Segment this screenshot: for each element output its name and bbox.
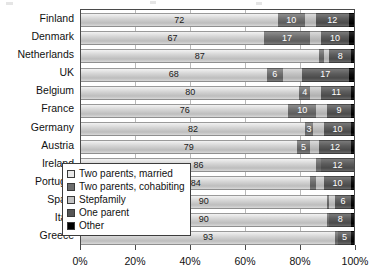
bar-segment (316, 176, 324, 190)
bar-value-label: 6 (341, 197, 346, 206)
bar-value-label: 90 (199, 197, 209, 206)
legend-item: Other (67, 219, 185, 232)
bar-segment: 76 (81, 104, 288, 118)
bar-row: 878 (81, 49, 354, 61)
bar-value-label: 10 (286, 16, 296, 25)
bar-value-label: 12 (327, 16, 337, 25)
bar-value-label: 90 (199, 215, 209, 224)
bar-value-label: 5 (342, 233, 347, 242)
bar-value-label: 8 (338, 215, 343, 224)
bar-value-label: 10 (333, 179, 343, 188)
bar-segment: 5 (338, 231, 352, 245)
bar-value-label: 9 (336, 106, 341, 115)
bar-segment: 11 (321, 86, 351, 100)
bar-value-label: 84 (191, 179, 201, 188)
bar-segment: 17 (302, 68, 348, 82)
bar-segment (351, 176, 354, 190)
bar-value-label: 10 (330, 34, 340, 43)
x-tick-60 (245, 245, 246, 250)
scan-artifact (256, 2, 262, 5)
bar-segment (349, 31, 354, 45)
bar-segment (316, 104, 327, 118)
bar-row: 82310 (81, 122, 354, 134)
bar-segment (351, 195, 354, 209)
bar-segment: 3 (305, 122, 313, 136)
bar-value-label: 17 (320, 70, 330, 79)
bar-segment: 82 (81, 122, 305, 136)
y-axis-label-finland: Finland (0, 13, 74, 24)
bar-segment: 17 (264, 31, 310, 45)
bar-segment: 5 (297, 140, 311, 154)
bar-value-label: 68 (169, 70, 179, 79)
bar-segment: 8 (329, 49, 351, 63)
bar-row: 671710 (81, 31, 354, 43)
bar-segment (305, 13, 316, 27)
legend-swatch (67, 222, 75, 230)
bar-row: 68617 (81, 68, 354, 80)
x-axis (80, 245, 355, 253)
bar-segment (283, 68, 302, 82)
bar-segment (351, 213, 354, 227)
bar-row: 79512 (81, 140, 354, 152)
bar-segment: 10 (324, 176, 351, 190)
bar-segment (351, 49, 354, 63)
bar-segment (349, 68, 354, 82)
bar-segment: 12 (319, 140, 352, 154)
y-axis-label-france: France (0, 103, 74, 114)
bar-value-label: 82 (188, 125, 198, 134)
legend-swatch (67, 209, 75, 217)
bar-segment: 68 (81, 68, 267, 82)
y-axis-label-belgium: Belgium (0, 85, 74, 96)
legend-label: One parent (79, 208, 129, 218)
legend-item: One parent (67, 206, 185, 219)
bar-value-label: 11 (332, 88, 341, 97)
y-axis-label-austria: Austria (0, 140, 74, 151)
bar-segment: 10 (324, 122, 351, 136)
bar-segment: 80 (81, 86, 299, 100)
bar-row: 80411 (81, 86, 354, 98)
bar-segment: 9 (327, 104, 352, 118)
x-tick-label-40: 40% (179, 255, 200, 267)
x-tick-label-80: 80% (289, 255, 310, 267)
x-axis-tick-labels: 0%20%40%60%80%100% (0, 255, 369, 271)
bar-segment (351, 86, 354, 100)
bar-segment (310, 140, 318, 154)
bar-segment: 87 (81, 49, 319, 63)
bar-value-label: 5 (301, 143, 306, 152)
y-axis-label-uk: UK (0, 67, 74, 78)
legend-swatch (67, 183, 75, 191)
bar-value-label: 17 (282, 34, 292, 43)
bar-value-label: 10 (333, 125, 343, 134)
bar-value-label: 8 (338, 52, 343, 61)
legend-item: Two parents, cohabiting (67, 180, 185, 193)
bar-value-label: 93 (203, 233, 213, 242)
chart-legend: Two parents, marriedTwo parents, cohabit… (62, 163, 191, 236)
legend-swatch (67, 196, 75, 204)
bar-value-label: 79 (184, 143, 194, 152)
bar-value-label: 67 (167, 34, 177, 43)
bar-value-label: 6 (272, 70, 277, 79)
bar-segment (351, 122, 354, 136)
x-tick-label-100: 100% (342, 255, 369, 267)
bar-segment (313, 122, 324, 136)
x-tick-label-20: 20% (124, 255, 145, 267)
y-axis-label-netherlands: Netherlands (0, 49, 74, 60)
y-axis-label-denmark: Denmark (0, 31, 74, 42)
bar-row: 76109 (81, 104, 354, 116)
legend-swatch (67, 170, 75, 178)
bar-segment (349, 13, 354, 27)
bar-segment (310, 31, 321, 45)
x-tick-80 (300, 245, 301, 250)
x-tick-label-0: 0% (72, 255, 87, 267)
scan-artifact (150, 1, 156, 4)
legend-item: Two parents, married (67, 167, 185, 180)
bar-value-label: 4 (302, 88, 307, 97)
bar-value-label: 76 (180, 106, 190, 115)
bar-segment (351, 140, 354, 154)
bar-value-label: 86 (193, 161, 203, 170)
bar-segment (351, 104, 354, 118)
bar-segment: 10 (288, 104, 315, 118)
x-tick-0 (80, 245, 81, 250)
legend-label: Two parents, cohabiting (79, 182, 185, 192)
x-tick-label-60: 60% (234, 255, 255, 267)
